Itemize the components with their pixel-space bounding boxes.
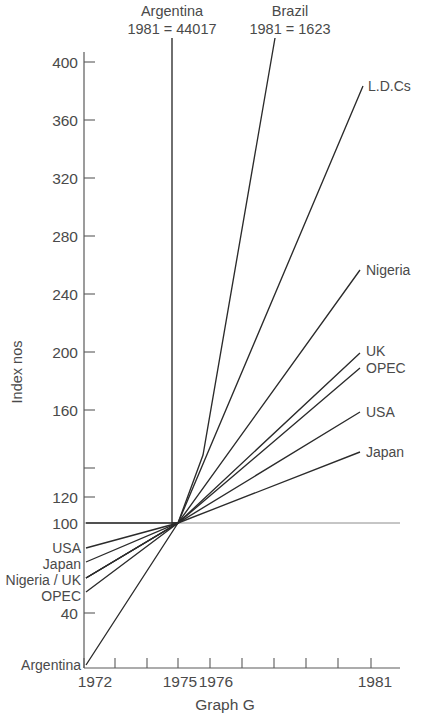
series-label-usa-left: USA <box>52 540 81 556</box>
y-tick-marks <box>84 62 95 613</box>
series-line-argentina <box>86 38 178 665</box>
y-axis-title: Index nos <box>9 341 25 404</box>
x-tick-label-1981: 1981 <box>358 673 392 690</box>
series-line-nigeria <box>86 270 360 578</box>
x-tick-label-1975: 1975 <box>163 673 197 690</box>
y-tick-label-200: 200 <box>52 344 78 361</box>
series-label-usa: USA <box>366 404 395 420</box>
x-tick-marks <box>84 658 371 668</box>
series-label-opec: OPEC <box>366 360 406 376</box>
annotation-brazil-name: Brazil <box>272 3 308 19</box>
y-tick-label-400: 400 <box>52 54 78 71</box>
annotation-brazil-value: 1981 = 1623 <box>249 21 330 37</box>
series-line-opec <box>86 368 360 592</box>
series-label-nigeria: Nigeria <box>366 262 411 278</box>
series-label-opec-left: OPEC <box>41 588 81 604</box>
y-tick-label-320: 320 <box>52 170 78 187</box>
y-tick-label-40: 40 <box>61 605 79 622</box>
x-tick-label-1972: 1972 <box>78 673 112 690</box>
series-label-uk: UK <box>366 343 386 359</box>
y-tick-label-120: 120 <box>52 489 78 506</box>
y-tick-label-360: 360 <box>52 112 78 129</box>
annotation-argentina-name: Argentina <box>141 3 204 19</box>
series-label-nigeria-uk-left: Nigeria / UK <box>6 572 82 588</box>
y-tick-label-240: 240 <box>52 286 78 303</box>
y-tick-label-160: 160 <box>52 402 78 419</box>
line-chart: 400 360 320 280 240 200 160 120 100 40 I… <box>0 0 421 716</box>
series-label-ldcs: L.D.Cs <box>368 78 411 94</box>
series-label-argentina-left: Argentina <box>21 657 81 673</box>
series-label-japan-left: Japan <box>43 556 81 572</box>
series-line-usa <box>86 412 360 548</box>
chart-root: 400 360 320 280 240 200 160 120 100 40 I… <box>0 0 421 716</box>
series-line-brazil <box>86 38 275 523</box>
x-tick-label-1976: 1976 <box>199 673 233 690</box>
y-tick-label-280: 280 <box>52 228 78 245</box>
annotation-argentina-value: 1981 = 44017 <box>127 21 216 37</box>
series-label-japan: Japan <box>366 444 404 460</box>
series-line-japan <box>86 452 360 562</box>
chart-caption: Graph G <box>195 696 254 713</box>
y-tick-label-100: 100 <box>52 515 78 532</box>
